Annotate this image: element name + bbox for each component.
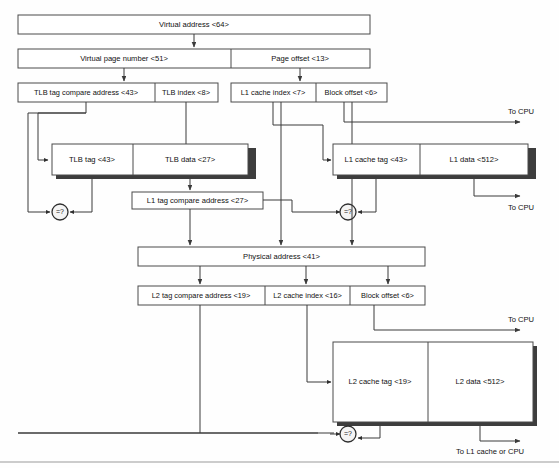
conn-tlbtag-out-to-comparator [70,179,92,212]
tlb-tag-compare-address-label: TLB tag compare address <43> [34,88,138,97]
physical-address-label: Physical address <41> [243,252,320,261]
to-cpu-label-2: To CPU [508,203,534,212]
to-cpu-label-1: To CPU [508,107,534,116]
page-offset-label: Page offset <13> [271,54,329,63]
l2-tag-compare-address-label: L2 tag compare address <19> [152,291,251,300]
conn-l1data-to-cpu [474,179,520,196]
conn-l1index-to-l1cache [273,102,331,160]
tlb-comparator-label: =? [56,208,64,215]
l1-data-label: L1 data <512> [450,155,500,164]
conn-blockoffset-to-cpu-3 [374,305,520,330]
l2-cache-tag-label: L2 cache tag <19> [349,377,412,386]
virtual-page-number-label: Virtual page number <51> [80,54,168,63]
conn-l2tagcompare-down [200,305,318,433]
l2-cache-index-label: L2 cache index <16> [273,291,342,300]
conn-l1tag-out-to-comparator [358,179,376,212]
conn-l2index-to-l2cache [307,305,331,382]
block-offset-label-1: Block offset <6> [325,88,378,97]
l1-tag-compare-address-label: L1 tag compare address <27> [147,196,249,205]
conn-blockoffset-to-cpu-1 [344,102,520,122]
tlb-index-label: TLB index <8> [162,88,210,97]
conn-l2tag-out-to-comparator [358,426,380,438]
l1-comparator-label: =? [344,208,352,215]
diagram-canvas: Virtual address <64> Virtual page number… [0,0,559,468]
to-cpu-label-3: To CPU [508,315,534,324]
l2-comparator-label: =? [344,430,352,437]
l1-cache-index-label: L1 cache index <7> [241,88,306,97]
conn-l2data-to-l1-or-cpu [480,426,520,441]
conn-l1tagcompare-to-comparator [263,200,340,212]
l2-data-label: L2 data <512> [456,377,506,386]
virtual-memory-cache-diagram: Virtual address <64> Virtual page number… [0,0,559,468]
l1-cache-tag-label: L1 cache tag <43> [345,155,408,164]
virtual-address-label: Virtual address <64> [159,20,230,29]
tlb-data-label: TLB data <27> [165,155,216,164]
to-l1-cache-or-cpu-label: To L1 cache or CPU [456,447,524,456]
block-offset-label-2: Block offset <6> [361,291,414,300]
tlb-tag-label: TLB tag <43> [69,155,116,164]
